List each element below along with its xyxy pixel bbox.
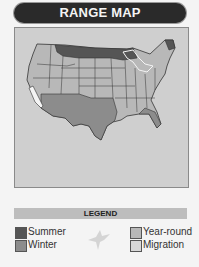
year-round-label: Year-round xyxy=(143,226,192,238)
legend-title: LEGEND xyxy=(14,208,187,219)
legend-header: LEGEND xyxy=(14,208,187,219)
page-title: RANGE MAP xyxy=(14,3,186,23)
range-map-card: RANGE MAP xyxy=(0,0,199,267)
summer-swatch xyxy=(15,227,27,239)
year-round-swatch xyxy=(130,227,142,239)
winter-swatch xyxy=(15,240,27,252)
migration-label: Migration xyxy=(143,239,184,251)
summer-label: Summer xyxy=(28,226,66,238)
bird-silhouette-icon xyxy=(86,228,112,252)
title-banner: RANGE MAP xyxy=(14,3,186,23)
winter-label: Winter xyxy=(28,239,57,251)
range-map xyxy=(14,27,189,188)
migration-swatch xyxy=(130,240,142,252)
us-map-icon xyxy=(15,28,188,187)
